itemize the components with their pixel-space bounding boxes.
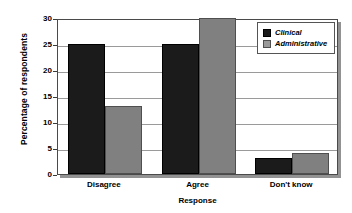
bar-clinical [68,44,105,174]
y-axis-tick-label: 20 [43,67,52,75]
legend-item-label: Clinical [275,29,302,37]
x-axis-tick-label: Disagree [87,181,121,189]
y-axis-title: Percentage of respondents [19,9,29,169]
legend: ClinicalAdministrative [257,22,335,54]
y-axis-tick-label: 5 [48,145,52,153]
y-axis-tick-labels: 051015202530 [30,19,52,175]
x-axis-tick-label: Don't know [270,181,313,189]
clinical-swatch [263,29,271,37]
bar-administrative [105,106,142,174]
administrative-swatch [263,40,271,48]
bar-chart: Percentage of respondents 051015202530 C… [0,0,352,213]
x-axis-title: Response [57,196,338,205]
x-axis-tick-label: Agree [186,181,209,189]
legend-item: Clinical [263,27,329,38]
legend-item: Administrative [263,38,329,49]
y-axis-tick-label: 25 [43,41,52,49]
x-axis-tick-labels: DisagreeAgreeDon't know [57,181,338,193]
y-axis-tick-mark [53,175,57,176]
bar-clinical [162,44,199,174]
y-axis-tick-label: 10 [43,119,52,127]
bar-administrative [199,18,236,174]
y-axis-tick-label: 0 [48,171,52,179]
y-axis-tick-label: 30 [43,15,52,23]
bar-administrative [292,153,329,174]
y-axis-tick-label: 15 [43,93,52,101]
bar-clinical [255,158,292,174]
legend-item-label: Administrative [275,40,327,48]
